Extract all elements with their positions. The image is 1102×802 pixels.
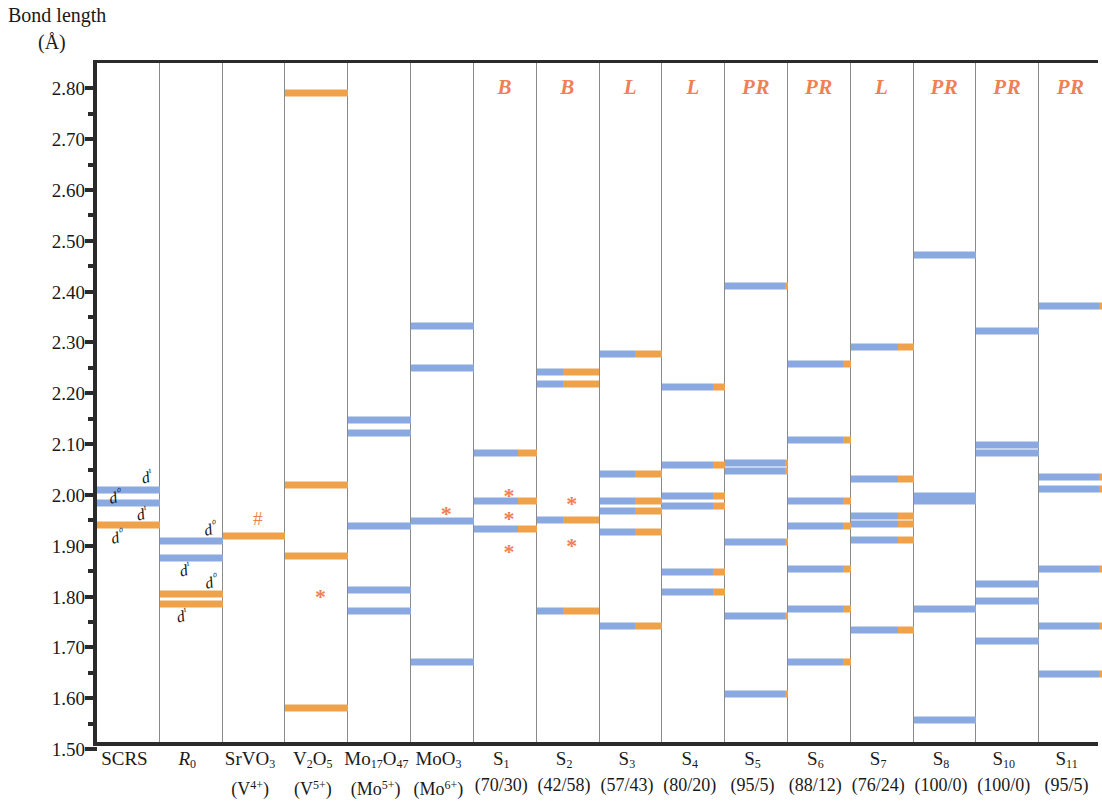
y-axis-title-line1: Bond length <box>8 3 106 27</box>
y-tick-minor <box>88 163 97 167</box>
bar-segment-d0 <box>843 565 851 572</box>
bar-segment-d0 <box>160 601 223 608</box>
column-S11[interactable]: PR <box>1039 63 1102 742</box>
bar-segment-d0 <box>898 536 913 543</box>
y-tick-minor <box>88 518 97 522</box>
bar-segment-d0 <box>898 343 913 350</box>
y-tick-label: 2.80 <box>23 79 85 98</box>
bar-segment-d1 <box>976 597 1039 604</box>
bond-length-bar <box>788 523 851 530</box>
bar-segment-d0 <box>635 470 662 477</box>
column-R0[interactable] <box>160 63 223 742</box>
bond-length-bar <box>662 569 725 576</box>
x-label-secondary: (100/0) <box>972 775 1035 796</box>
bond-length-bar <box>600 623 663 630</box>
bond-length-bar <box>1039 474 1102 481</box>
bond-length-bar <box>97 522 160 529</box>
x-label-primary: S6 <box>784 748 847 775</box>
bond-length-bar <box>285 552 348 559</box>
bond-length-bar <box>160 555 223 562</box>
bar-segment-d1 <box>600 508 636 515</box>
bond-length-bar <box>348 607 411 614</box>
column-S7[interactable]: L <box>851 63 914 742</box>
column-SrVO3[interactable]: # <box>223 63 286 742</box>
y-tick-major <box>85 239 97 243</box>
asterisk-mark: * <box>566 535 577 557</box>
bar-segment-d1 <box>537 607 563 614</box>
column-S5[interactable]: PR <box>725 63 788 742</box>
bar-segment-d0 <box>518 498 537 505</box>
column-SCRS[interactable] <box>97 63 160 742</box>
bar-segment-d0 <box>160 591 223 598</box>
bar-segment-d1 <box>348 416 411 423</box>
bar-segment-d1 <box>851 475 899 482</box>
bar-segment-d0 <box>898 521 913 528</box>
bar-segment-d1 <box>600 350 636 357</box>
bar-segment-d0 <box>563 381 599 388</box>
y-tick-label: 2.50 <box>23 231 85 250</box>
x-label-secondary: (76/24) <box>847 775 910 796</box>
bond-length-bar <box>976 580 1039 587</box>
bond-length-bar <box>285 481 348 488</box>
bond-length-bar <box>851 513 914 520</box>
asterisk-mark: * <box>315 586 326 608</box>
column-Mo17O47[interactable] <box>348 63 411 742</box>
bar-segment-d1 <box>914 606 977 613</box>
y-tick-minor <box>88 569 97 573</box>
bar-segment-d1 <box>600 498 636 505</box>
bar-segment-d0 <box>843 523 851 530</box>
column-S2[interactable]: B** <box>537 63 600 742</box>
bar-segment-d0 <box>563 517 599 524</box>
x-label-primary: V2O5 <box>281 748 344 775</box>
bar-segment-d0 <box>635 528 662 535</box>
column-V2O5[interactable]: * <box>285 63 348 742</box>
bond-length-bar <box>1039 565 1102 572</box>
y-tick-minor <box>88 213 97 217</box>
column-MoO3[interactable]: * <box>411 63 474 742</box>
column-S3[interactable]: L <box>600 63 663 742</box>
x-label-secondary: (57/43) <box>596 775 659 796</box>
bond-length-bar <box>600 498 663 505</box>
bar-segment-d1 <box>976 638 1039 645</box>
bar-segment-d1 <box>1039 302 1099 309</box>
y-tick-label: 2.40 <box>23 282 85 301</box>
bar-segment-d0 <box>635 508 662 515</box>
bond-length-bar <box>662 589 725 596</box>
bond-length-bar <box>914 606 977 613</box>
column-header-label: PR <box>914 75 976 100</box>
bar-segment-d1 <box>788 437 843 444</box>
bar-segment-d1 <box>1039 565 1099 572</box>
x-label-primary: S8 <box>910 748 973 775</box>
column-S10[interactable]: PR <box>976 63 1039 742</box>
x-label-primary: S2 <box>533 748 596 775</box>
bar-segment-d0 <box>843 437 851 444</box>
y-tick-major <box>85 595 97 599</box>
bond-length-bar <box>348 429 411 436</box>
bar-segment-d0 <box>843 658 851 665</box>
x-label-primary: S1 <box>470 748 533 775</box>
asterisk-mark: * <box>504 508 515 530</box>
bond-length-bar <box>600 470 663 477</box>
y-tick-minor <box>88 620 97 624</box>
y-tick-label: 1.70 <box>23 638 85 657</box>
y-tick-major <box>85 747 97 751</box>
column-S4[interactable]: L <box>662 63 725 742</box>
bar-segment-d1 <box>851 513 899 520</box>
bond-length-bar <box>160 537 223 544</box>
bond-length-bar <box>851 475 914 482</box>
bond-length-bar <box>851 536 914 543</box>
y-tick-minor <box>88 468 97 472</box>
bond-length-bar <box>725 612 788 619</box>
column-S6[interactable]: PR <box>788 63 851 742</box>
bar-segment-d0 <box>635 498 662 505</box>
bar-segment-d1 <box>537 368 563 375</box>
y-tick-major <box>85 86 97 90</box>
column-S8[interactable]: PR <box>914 63 977 742</box>
bond-length-bar <box>600 350 663 357</box>
x-label-primary: S11 <box>1035 748 1098 775</box>
column-S1[interactable]: B*** <box>474 63 537 742</box>
bar-segment-d1 <box>411 658 474 665</box>
bar-segment-d0 <box>843 606 851 613</box>
y-tick-minor <box>88 315 97 319</box>
